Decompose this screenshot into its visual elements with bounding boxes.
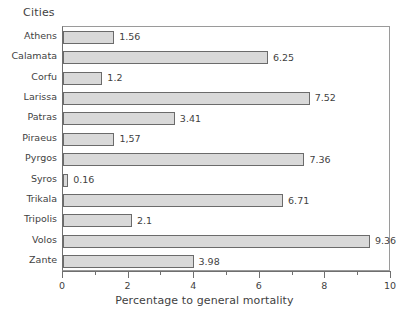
category-label-piraeus: Piraeus [0, 132, 57, 143]
category-label-tripolis: Tripolis [0, 213, 57, 224]
y-axis-title: Cities [23, 6, 55, 19]
x-tick-major [193, 271, 194, 278]
x-tick-label: 10 [384, 280, 396, 291]
category-labels-container: AthensCalamataCorfuLarissaPatrasPiraeusP… [62, 26, 390, 271]
x-tick-major [259, 271, 260, 278]
category-label-syros: Syros [0, 173, 57, 184]
x-tick-minor [226, 271, 227, 275]
x-tick-label: 8 [321, 280, 327, 291]
x-axis-title: Percentage to general mortality [0, 294, 409, 307]
category-label-zante: Zante [0, 254, 57, 265]
category-label-volos: Volos [0, 234, 57, 245]
x-tick-major [128, 271, 129, 278]
category-label-larissa: Larissa [0, 91, 57, 102]
category-label-trikala: Trikala [0, 193, 57, 204]
x-tick-label: 0 [59, 280, 65, 291]
x-tick-label: 4 [190, 280, 196, 291]
category-label-athens: Athens [0, 30, 57, 41]
x-tick-major [324, 271, 325, 278]
x-tick-minor [160, 271, 161, 275]
x-tick-minor [95, 271, 96, 275]
x-tick-major [390, 271, 391, 278]
x-tick-minor [357, 271, 358, 275]
x-tick-label: 6 [256, 280, 262, 291]
bar-chart-figure: Cities 1.566.251.27.523.411,577.360.166.… [0, 0, 409, 318]
x-tick-minor [292, 271, 293, 275]
category-label-patras: Patras [0, 111, 57, 122]
x-tick-label: 2 [125, 280, 131, 291]
category-label-corfu: Corfu [0, 71, 57, 82]
category-label-calamata: Calamata [0, 50, 57, 61]
category-label-pyrgos: Pyrgos [0, 152, 57, 163]
x-tick-major [62, 271, 63, 278]
